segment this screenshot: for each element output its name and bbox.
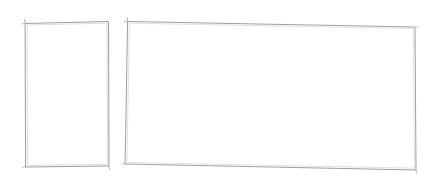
rect-right-overshoot-bottom-right	[416, 170, 417, 173]
sketch-canvas[interactable]: Blank sketch canvas containing two hand-…	[0, 0, 435, 187]
drawing-surface[interactable]	[0, 0, 435, 187]
